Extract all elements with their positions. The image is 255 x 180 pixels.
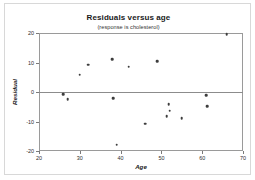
x-axis-label: Age [39, 163, 243, 170]
data-point [205, 94, 208, 97]
x-axis-tick-label: 20 [36, 155, 42, 161]
y-axis-tick-label: 0 [31, 89, 34, 95]
x-axis-tick [243, 151, 244, 154]
data-point [87, 63, 90, 66]
x-axis-tick-label: 70 [240, 155, 246, 161]
plot-area [39, 33, 243, 151]
x-axis-tick-label: 50 [158, 155, 164, 161]
chart-canvas: Residuals versus age (response is choles… [4, 3, 251, 175]
x-axis-tick [202, 151, 203, 154]
x-axis-tick-label: 40 [118, 155, 124, 161]
chart-subtitle: (response is cholesterol) [5, 23, 252, 31]
data-point [167, 103, 170, 106]
data-point [112, 97, 115, 100]
x-axis-tick [121, 151, 122, 154]
data-point [62, 93, 65, 96]
chart-title: Residuals versus age [5, 13, 252, 23]
y-axis-tick-label: -20 [26, 148, 34, 154]
y-axis-tick [36, 92, 39, 93]
x-axis-tick-label: 60 [199, 155, 205, 161]
y-axis-label: Residual [11, 79, 18, 105]
y-axis-tick [36, 63, 39, 64]
y-axis-tick-label: 10 [28, 60, 34, 66]
y-axis-tick [36, 33, 39, 34]
data-point [144, 123, 147, 126]
zero-reference-line [39, 92, 243, 93]
data-point [115, 143, 118, 146]
y-axis-tick [36, 122, 39, 123]
y-axis-tick-label: -10 [26, 119, 34, 125]
data-point [127, 65, 130, 68]
x-axis-tick [161, 151, 162, 154]
data-point [206, 105, 209, 108]
data-point [168, 109, 171, 112]
data-point [66, 98, 69, 101]
y-axis-tick-label: 20 [28, 30, 34, 36]
data-point [225, 33, 228, 36]
data-point [79, 73, 82, 76]
data-point [111, 58, 114, 61]
x-axis-tick-label: 30 [77, 155, 83, 161]
data-point [165, 115, 168, 118]
data-point [156, 60, 159, 63]
chart-title-block: Residuals versus age (response is choles… [5, 13, 252, 31]
data-point [181, 117, 184, 120]
x-axis-tick [80, 151, 81, 154]
y-axis-tick [36, 151, 39, 152]
x-axis-tick [39, 151, 40, 154]
chart-screenshot: Residuals versus age (response is choles… [0, 0, 255, 180]
